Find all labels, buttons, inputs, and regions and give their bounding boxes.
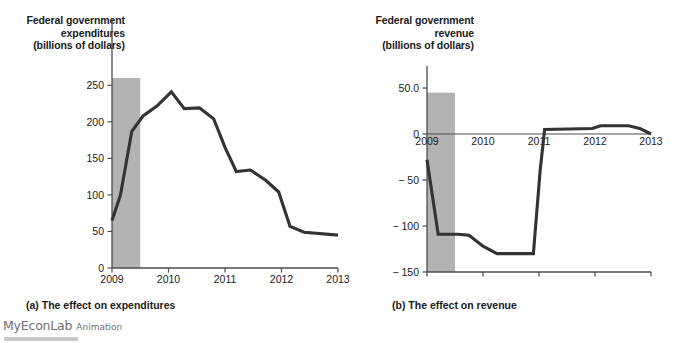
myeconlab-animation-label: Animation	[76, 322, 122, 332]
chart-panel-expenditures: Federal government expenditures (billion…	[0, 0, 349, 320]
caption-expenditures: (a) The effect on expenditures	[26, 299, 175, 311]
myeconlab-branding: MyEconLab Animation	[3, 318, 122, 333]
y-axis-tick-label: 0	[98, 262, 104, 274]
x-axis-tick-label: 2012	[583, 135, 607, 147]
x-axis-tick-label: 2010	[471, 135, 495, 147]
y-axis-tick-label: − 100	[392, 220, 419, 232]
y-axis-tick-label: 150	[86, 152, 104, 164]
myeconlab-logo-text: MyEconLab	[3, 318, 72, 333]
data-series-line	[112, 92, 338, 235]
y-axis-tick-label: 200	[86, 116, 104, 128]
y-axis-tick-label: 50.0	[399, 82, 420, 94]
caption-revenue: (b) The effect on revenue	[392, 299, 517, 311]
bottom-gray-bar	[4, 337, 78, 341]
figure-container: Federal government expenditures (billion…	[0, 0, 698, 343]
x-axis-tick-label: 2013	[326, 273, 350, 285]
x-axis-tick-label: 2009	[100, 273, 124, 285]
x-axis-tick-label: 2013	[639, 135, 663, 147]
y-axis-tick-label: − 150	[392, 266, 419, 278]
y-axis-tick-label: − 50	[398, 174, 419, 186]
y-axis-tick-label: 50	[92, 225, 104, 237]
expenditures-plot: 05010015020025020092010201120122013	[0, 0, 349, 320]
recession-shaded-band	[112, 78, 140, 268]
x-axis-tick-label: 2011	[528, 135, 551, 147]
y-axis-tick-label: 100	[86, 189, 104, 201]
chart-panel-revenue: Federal government revenue (billions of …	[349, 0, 698, 320]
x-axis-tick-label: 2009	[415, 135, 439, 147]
x-axis-tick-label: 2010	[157, 273, 181, 285]
y-axis-tick-label: 250	[86, 79, 104, 91]
x-axis-tick-label: 2012	[270, 273, 294, 285]
revenue-plot: 50.00− 50− 100− 15020092010201120122013	[349, 0, 698, 320]
x-axis-tick-label: 2011	[214, 273, 237, 285]
